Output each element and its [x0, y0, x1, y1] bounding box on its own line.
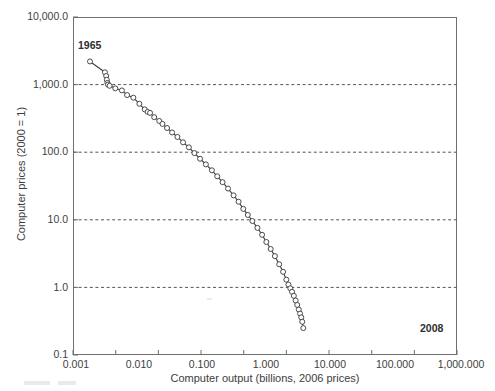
- x-axis-tickmarks: [73, 350, 457, 355]
- data-point-marker: [175, 134, 180, 139]
- data-point-marker: [170, 130, 175, 135]
- data-point-marker: [87, 59, 92, 64]
- data-point-marker: [113, 86, 118, 91]
- data-point-marker: [284, 277, 289, 282]
- data-point-marker: [255, 225, 260, 230]
- data-point-marker: [277, 262, 282, 267]
- data-point-marker: [198, 156, 203, 161]
- data-point-marker: [209, 168, 214, 173]
- series-line: [90, 61, 303, 328]
- data-point-marker: [272, 254, 277, 259]
- plot-canvas: [73, 17, 457, 355]
- data-point-marker: [226, 186, 231, 191]
- figure-container: 10,000.0 1,000.0 100.0 10.0 1.0 0.1 0.00…: [0, 0, 495, 391]
- data-point-marker: [119, 88, 124, 93]
- data-point-marker: [107, 83, 112, 88]
- data-point-marker: [192, 151, 197, 156]
- y-tick-label: 10,000.0: [27, 11, 68, 22]
- x-tick-label: 1.000: [253, 358, 279, 370]
- y-axis-title: Computer prices (2000 = 1): [15, 69, 27, 279]
- data-point-marker: [241, 206, 246, 211]
- data-point-marker: [260, 232, 265, 237]
- gridlines-group: [73, 85, 457, 288]
- data-point-marker: [186, 145, 191, 150]
- data-point-marker: [220, 180, 225, 185]
- x-axis-title: Computer output (billions, 2006 prices): [73, 372, 457, 384]
- data-point-marker: [245, 212, 250, 217]
- data-point-marker: [181, 140, 186, 145]
- y-tick-label: 100.0: [42, 146, 68, 157]
- y-axis-tickmarks: [73, 17, 78, 355]
- data-point-marker: [148, 110, 153, 115]
- data-point-marker: [300, 319, 305, 324]
- data-point-marker: [231, 193, 236, 198]
- series-markers: [87, 59, 305, 331]
- data-point-marker: [264, 239, 269, 244]
- data-point-marker: [137, 101, 142, 106]
- data-point-marker: [236, 199, 241, 204]
- annotation-end-year: 2008: [420, 322, 443, 334]
- annotation-start-year: 1965: [78, 39, 101, 51]
- data-point-marker: [125, 93, 130, 98]
- scan-artifact: [58, 381, 76, 385]
- data-point-marker: [301, 326, 306, 331]
- series-polyline: [90, 61, 303, 328]
- y-tick-label: 10.0: [48, 214, 68, 225]
- data-point-marker: [131, 95, 136, 100]
- scan-artifact: [207, 298, 212, 300]
- x-tick-label: 100.000: [376, 358, 414, 370]
- x-tick-label: 0.010: [126, 358, 152, 370]
- data-point-marker: [160, 121, 165, 126]
- data-point-marker: [165, 126, 170, 131]
- data-point-marker: [250, 219, 255, 224]
- x-tick-label: 10.000: [314, 358, 346, 370]
- data-point-marker: [281, 269, 286, 274]
- data-point-marker: [268, 246, 273, 251]
- x-tick-label: 0.100: [189, 358, 215, 370]
- scan-artifact: [24, 381, 50, 385]
- data-point-marker: [152, 115, 157, 120]
- x-tick-label: 0.001: [63, 358, 89, 370]
- y-tick-label: 1.0: [53, 282, 68, 293]
- y-tick-label: 1,000.0: [33, 79, 68, 90]
- data-point-marker: [203, 162, 208, 167]
- y-axis-tick-labels: 10,000.0 1,000.0 100.0 10.0 1.0 0.1: [0, 0, 68, 391]
- x-tick-label: 1,000.000: [438, 358, 485, 370]
- data-point-marker: [215, 174, 220, 179]
